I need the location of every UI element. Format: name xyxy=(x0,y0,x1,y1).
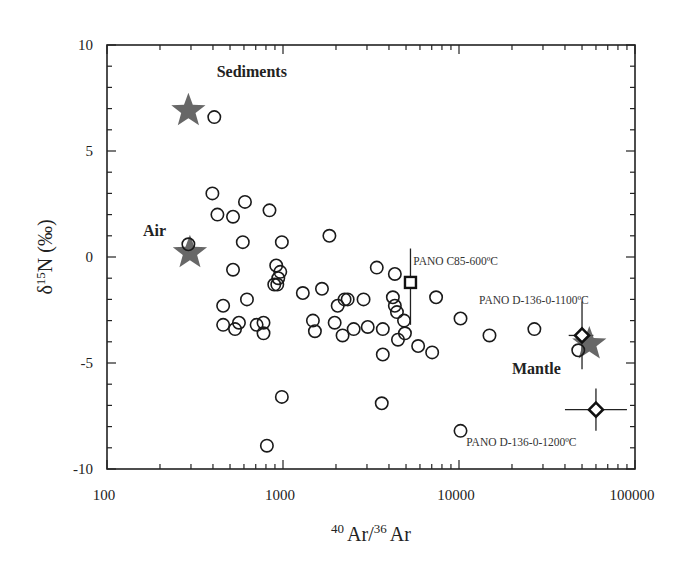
data-point xyxy=(217,300,229,312)
data-point xyxy=(483,329,495,341)
data-point xyxy=(316,283,328,295)
data-point xyxy=(297,287,309,299)
sample-label: PANO D-136-0-1100ºC xyxy=(479,294,589,306)
data-point xyxy=(362,321,374,333)
square-marker xyxy=(405,277,416,288)
data-point xyxy=(371,261,383,273)
star-marker-mantle xyxy=(572,326,606,359)
data-point xyxy=(341,293,353,305)
y-tick-label: -10 xyxy=(73,461,93,477)
reservoir-label: Sediments xyxy=(217,63,287,80)
reservoir-label: Air xyxy=(143,222,166,239)
data-point xyxy=(276,236,288,248)
data-point xyxy=(211,208,223,220)
data-point xyxy=(426,346,438,358)
y-tick-label: 10 xyxy=(78,37,93,53)
star-marker-sediments xyxy=(171,93,205,126)
data-point xyxy=(239,196,251,208)
data-point xyxy=(398,314,410,326)
data-point xyxy=(357,293,369,305)
data-point xyxy=(387,291,399,303)
data-point xyxy=(227,211,239,223)
data-point xyxy=(430,291,442,303)
data-point xyxy=(261,439,273,451)
data-point xyxy=(263,204,275,216)
data-point xyxy=(377,348,389,360)
data-point xyxy=(377,323,389,335)
x-tick-label: 100000 xyxy=(610,487,655,503)
diamond-marker xyxy=(589,403,603,417)
y-axis-title: δ15N (‰) xyxy=(33,219,57,294)
y-axis-tick-labels: -10-50510 xyxy=(73,37,93,477)
data-point xyxy=(347,323,359,335)
data-point xyxy=(376,397,388,409)
data-point xyxy=(454,425,466,437)
sample-points xyxy=(182,111,584,452)
y-tick-label: 5 xyxy=(86,143,94,159)
data-point xyxy=(276,391,288,403)
y-tick-label: -5 xyxy=(81,355,94,371)
x-tick-label: 100 xyxy=(93,487,116,503)
x-tick-label: 1000 xyxy=(265,487,295,503)
sample-label: PANO D-136-0-1200ºC xyxy=(466,436,576,448)
data-point xyxy=(206,187,218,199)
data-point xyxy=(412,340,424,352)
x-axis-title: 40Ar/36Ar xyxy=(331,521,411,545)
x-tick-label: 10000 xyxy=(437,487,475,503)
scatter-chart: -10-50510 100100010000100000 δ15N (‰) 40… xyxy=(0,0,682,578)
reservoir-stars xyxy=(171,93,606,359)
data-point xyxy=(454,312,466,324)
data-point xyxy=(217,319,229,331)
data-point xyxy=(208,111,220,123)
data-point xyxy=(241,293,253,305)
x-axis-tick-labels: 100100010000100000 xyxy=(93,487,655,503)
data-point xyxy=(323,230,335,242)
y-tick-label: 0 xyxy=(86,249,94,265)
data-point xyxy=(237,236,249,248)
data-point xyxy=(227,264,239,276)
data-point xyxy=(328,317,340,329)
data-point xyxy=(528,323,540,335)
data-point xyxy=(389,268,401,280)
sample-label: PANO C85-600ºC xyxy=(413,255,498,267)
data-point xyxy=(336,329,348,341)
reservoir-label: Mantle xyxy=(512,360,561,377)
